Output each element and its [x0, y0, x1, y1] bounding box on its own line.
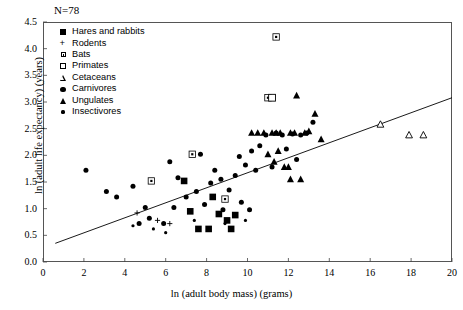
- legend-label: Bats: [72, 49, 90, 60]
- legend-item-ungulates: Ungulates: [56, 94, 191, 105]
- sample-size-annotation: N=78: [54, 4, 79, 16]
- y-tick-label: 0.0: [11, 256, 37, 267]
- legend-label: Ungulates: [72, 95, 113, 106]
- legend-label: Hares and rabbits: [72, 26, 145, 37]
- x-tick-label: 6: [156, 267, 176, 278]
- square-filled-icon: [56, 26, 72, 37]
- plus-icon: +: [56, 38, 72, 49]
- triangle-open-icon: [56, 72, 72, 83]
- x-tick-label: 14: [319, 267, 339, 278]
- legend-label: Insectivores: [72, 106, 121, 117]
- dot-small-icon: [56, 106, 72, 117]
- legend-item-carnivores: Carnivores: [56, 83, 191, 94]
- square-open-icon: [56, 60, 72, 71]
- x-tick-label: 16: [360, 267, 380, 278]
- y-axis-label: ln (adult life expectancy) (years): [33, 26, 44, 226]
- circle-filled-icon: [56, 83, 72, 94]
- x-tick-label: 10: [238, 267, 258, 278]
- x-tick-label: 8: [197, 267, 217, 278]
- legend-item-insectivores: Insectivores: [56, 106, 191, 117]
- square-dotted-icon: [56, 49, 72, 60]
- x-tick-label: 20: [442, 267, 462, 278]
- legend-label: Primates: [72, 60, 108, 71]
- legend-item-primates: Primates: [56, 60, 191, 71]
- legend-item-rodents: + Rodents: [56, 37, 191, 48]
- legend-label: Rodents: [72, 38, 106, 49]
- triangle-filled-icon: [56, 95, 72, 106]
- x-tick-label: 2: [74, 267, 94, 278]
- legend-item-cetaceans: Cetaceans: [56, 72, 191, 83]
- x-tick-label: 18: [401, 267, 421, 278]
- y-tick-label: 0.5: [11, 229, 37, 240]
- scatter-plot-figure: N=78 Hares and rabbits + Rodents Bats Pr…: [0, 0, 463, 310]
- x-tick-label: 0: [33, 267, 53, 278]
- x-tick-label: 12: [278, 267, 298, 278]
- legend-item-hares-and-rabbits: Hares and rabbits: [56, 26, 191, 37]
- legend-label: Carnivores: [72, 83, 116, 94]
- x-axis-label: ln (adult body mass) (grams): [0, 288, 463, 299]
- legend-item-bats: Bats: [56, 49, 191, 60]
- x-tick-label: 4: [115, 267, 135, 278]
- legend-label: Cetaceans: [72, 72, 116, 83]
- legend: Hares and rabbits + Rodents Bats Primate…: [56, 26, 191, 117]
